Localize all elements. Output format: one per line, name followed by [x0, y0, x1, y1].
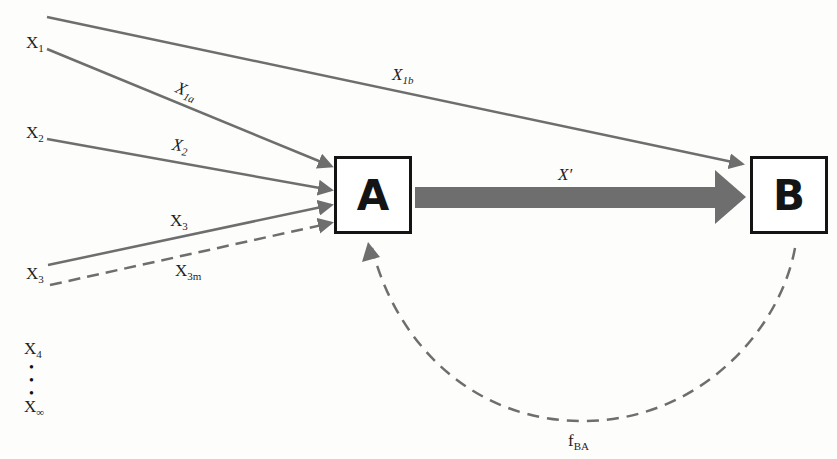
label-x2: X2 — [171, 136, 190, 158]
diagram-canvas — [0, 0, 837, 459]
label-x3m: X3m — [175, 262, 201, 282]
edge-fba — [372, 248, 795, 421]
edge-x2 — [47, 139, 331, 190]
edge-x3 — [48, 205, 331, 265]
node-b: B — [750, 156, 828, 234]
label-fba: fBA — [568, 432, 589, 452]
input-x3: X3 — [26, 265, 44, 285]
edge-fba-head — [362, 242, 380, 262]
node-a: A — [334, 156, 412, 234]
input-x4: X4 — [24, 340, 42, 360]
input-x1: X1 — [26, 34, 44, 54]
input-xinf: X∞ — [24, 398, 44, 418]
edge-xprime-shaft — [415, 187, 715, 208]
ellipsis-icon: ••• — [29, 361, 34, 400]
label-xprime: X′ — [558, 166, 572, 183]
edge-x1b — [47, 17, 742, 164]
label-x3: X3 — [170, 212, 188, 232]
input-x2: X2 — [26, 124, 44, 144]
edge-xprime-head — [715, 170, 746, 224]
label-x1b: X1b — [392, 66, 413, 86]
edge-x1a — [47, 49, 331, 166]
